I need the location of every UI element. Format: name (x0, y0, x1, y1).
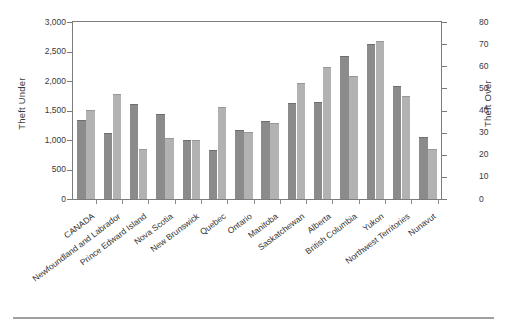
y-tick-label-left: 1,500 (45, 106, 66, 115)
y-tick-label-right: 70 (479, 40, 488, 49)
bar-theft-under (77, 120, 86, 199)
y-tick-label-left: 2,500 (45, 47, 66, 56)
bar-group (261, 22, 279, 199)
bar-theft-under (156, 114, 165, 199)
y-tick-label-right: 80 (479, 18, 488, 27)
bar-theft-over (376, 41, 385, 199)
y-tick-mark-right (442, 177, 447, 178)
x-tick-mark (306, 199, 307, 204)
x-axis-label: Quebec (198, 212, 227, 237)
y-tick-label-left: 0 (61, 195, 66, 204)
y-tick-mark-right (442, 22, 447, 23)
y-tick-mark-right (442, 88, 447, 89)
y-tick-mark-left (67, 81, 72, 82)
x-tick-mark (280, 199, 281, 204)
y-tick-label-right: 50 (479, 84, 488, 93)
bar-theft-over (113, 94, 122, 199)
x-tick-mark (201, 199, 202, 204)
x-tick-mark (385, 199, 386, 204)
bar-theft-under (183, 140, 192, 199)
bar-group (419, 22, 437, 199)
y-tick-mark-right (442, 44, 447, 45)
y-tick-label-right: 60 (479, 62, 488, 71)
y-tick-mark-right (442, 155, 447, 156)
bar-group (340, 22, 358, 199)
bar-theft-over (218, 107, 227, 199)
bar-group (288, 22, 306, 199)
bar-group (209, 22, 227, 199)
x-tick-mark (332, 199, 333, 204)
bar-group (130, 22, 148, 199)
y-tick-mark-left (67, 170, 72, 171)
chart-figure: Theft Under Theft Over 05001,0001,5002,0… (0, 0, 507, 334)
y-tick-label-right: 30 (479, 128, 488, 137)
bar-group (156, 22, 174, 199)
bar-group (235, 22, 253, 199)
bar-theft-over (244, 132, 253, 199)
bar-theft-over (86, 110, 95, 200)
y-tick-label-right: 20 (479, 150, 488, 159)
x-tick-mark (438, 199, 439, 204)
bar-theft-under (209, 150, 218, 199)
bar-theft-over (323, 67, 332, 199)
bar-group (367, 22, 385, 199)
y-tick-label-left: 500 (52, 165, 66, 174)
y-tick-mark-right (442, 133, 447, 134)
bar-theft-under (367, 44, 376, 199)
bar-theft-over (428, 149, 437, 199)
y-tick-label-right: 40 (479, 106, 488, 115)
bar-theft-over (192, 140, 201, 199)
x-tick-mark (175, 199, 176, 204)
bar-group (77, 22, 95, 199)
y-tick-mark-left (67, 111, 72, 112)
footer-rule (13, 317, 494, 319)
x-tick-mark (122, 199, 123, 204)
bar-theft-over (139, 149, 148, 199)
y-tick-mark-left (67, 52, 72, 53)
y-tick-mark-left (67, 199, 72, 200)
bar-theft-over (165, 138, 174, 199)
x-tick-mark (359, 199, 360, 204)
y-tick-mark-right (442, 66, 447, 67)
x-tick-mark (96, 199, 97, 204)
bar-theft-over (349, 76, 358, 199)
bar-theft-over (297, 83, 306, 199)
y-tick-mark-right (442, 111, 447, 112)
bar-theft-under (130, 104, 139, 199)
bar-group (183, 22, 201, 199)
y-tick-label-right: 0 (479, 195, 484, 204)
bar-theft-under (235, 130, 244, 199)
y-axis-title-left: Theft Under (16, 61, 27, 147)
y-tick-mark-left (67, 140, 72, 141)
x-axis-label: Nunavut (407, 212, 437, 238)
x-tick-mark (254, 199, 255, 204)
bar-theft-under (104, 133, 113, 199)
plot-area (73, 22, 441, 199)
bar-group (314, 22, 332, 199)
y-tick-label-left: 2,000 (45, 77, 66, 86)
bar-theft-under (314, 102, 323, 199)
y-tick-label-left: 1,000 (45, 136, 66, 145)
bar-theft-under (261, 121, 270, 199)
bar-theft-over (402, 96, 411, 199)
bar-group (393, 22, 411, 199)
y-tick-mark-left (67, 22, 72, 23)
x-tick-mark (411, 199, 412, 204)
bar-theft-over (270, 123, 279, 199)
y-tick-mark-right (442, 199, 447, 200)
x-tick-mark (148, 199, 149, 204)
x-tick-mark (227, 199, 228, 204)
bar-theft-under (419, 137, 428, 199)
bar-theft-under (393, 86, 402, 199)
bar-theft-under (288, 103, 297, 199)
y-tick-label-right: 10 (479, 172, 488, 181)
y-tick-label-left: 3,000 (45, 18, 66, 27)
bar-group (104, 22, 122, 199)
bar-theft-under (340, 56, 349, 199)
x-axis-line (72, 199, 442, 200)
